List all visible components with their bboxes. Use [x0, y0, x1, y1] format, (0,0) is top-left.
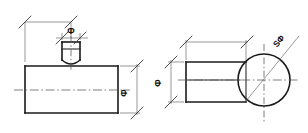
dimension-top-overall: [19, 16, 77, 62]
dimension-length-overall: [180, 36, 253, 60]
spherical-diameter-label: SΦ: [271, 33, 287, 49]
side-view-shank-outline: [186, 62, 246, 102]
engineering-drawing-canvas: Φ Φ: [0, 0, 308, 133]
dim-leader-spherical-diameter: [246, 36, 299, 101]
boss-diameter-label: Φ: [67, 26, 75, 36]
technical-drawing-svg: Φ Φ: [0, 0, 308, 133]
dimension-body-diameter-right: Φ: [119, 60, 143, 119]
body-diameter-right-label: Φ: [119, 89, 129, 97]
dimension-spherical-diameter: SΦ: [246, 33, 299, 101]
front-view-body-outline: [25, 66, 118, 113]
dimension-shank-diameter: Φ: [153, 56, 184, 108]
front-view-group: Φ Φ: [14, 16, 143, 119]
shank-diameter-label: Φ: [153, 79, 163, 87]
side-view-group: Φ SΦ: [153, 33, 300, 122]
